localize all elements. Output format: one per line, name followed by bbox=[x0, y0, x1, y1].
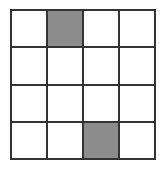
grid-cell bbox=[11, 85, 47, 122]
grid-cell bbox=[11, 122, 47, 159]
grid-cell bbox=[119, 47, 155, 84]
grid-cell-shaded bbox=[83, 122, 119, 159]
grid-cell bbox=[47, 85, 83, 122]
grid-cell bbox=[83, 85, 119, 122]
grid-cell bbox=[47, 47, 83, 84]
grid-cell bbox=[119, 85, 155, 122]
grid-cell bbox=[83, 47, 119, 84]
diagram-canvas bbox=[0, 0, 163, 169]
grid-cell bbox=[11, 47, 47, 84]
grid-cell bbox=[47, 122, 83, 159]
grid-cell bbox=[119, 10, 155, 47]
grid-cell bbox=[83, 10, 119, 47]
grid-cell bbox=[119, 122, 155, 159]
grid-cell bbox=[11, 10, 47, 47]
grid-4x4 bbox=[10, 9, 156, 160]
grid-cell-shaded bbox=[47, 10, 83, 47]
